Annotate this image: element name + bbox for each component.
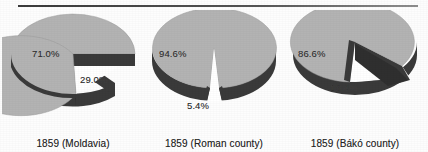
pie-caption: 1859 (Moldavia) — [2, 138, 144, 149]
pie-caption: 1859 (Roman county) — [143, 138, 285, 149]
pie-roman-county-graphic — [143, 10, 285, 152]
pie-label-major: 71.0% — [32, 48, 59, 59]
pie-label-minor: 29.0% — [80, 74, 107, 85]
pie-label-minor: 13.4% — [330, 82, 357, 93]
pie-charts-row: 71.0% 29.0% 1859 (Moldavia) — [0, 10, 428, 152]
pie-exposed-inner-wall — [73, 54, 135, 66]
pie-caption: 1859 (Bákó county) — [284, 138, 426, 149]
pie-chart-roman-county: 94.6% 5.4% 1859 (Roman county) — [143, 10, 285, 152]
pie-chart-moldavia: 71.0% 29.0% 1859 (Moldavia) — [2, 10, 144, 152]
pie-moldavia-graphic — [2, 10, 144, 152]
pie-bako-county-graphic — [284, 10, 426, 152]
pie-label-major: 94.6% — [159, 48, 186, 59]
pie-label-minor: 5.4% — [187, 100, 209, 111]
pie-chart-bako-county: 86.6% 13.4% 1859 (Bákó county) — [284, 10, 426, 152]
pie-label-major: 86.6% — [298, 48, 325, 59]
pie-chart-figure: 71.0% 29.0% 1859 (Moldavia) — [0, 0, 428, 152]
top-divider-rule — [18, 5, 418, 7]
